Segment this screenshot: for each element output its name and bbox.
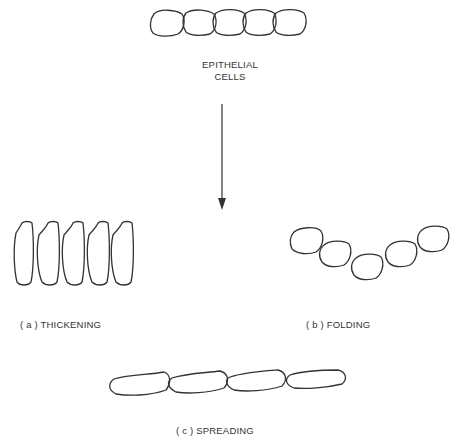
cell bbox=[243, 10, 276, 36]
cell bbox=[62, 222, 84, 286]
cell bbox=[111, 222, 133, 286]
arrow-down-icon bbox=[218, 104, 226, 210]
thickening-cells bbox=[14, 222, 133, 286]
cell bbox=[287, 370, 346, 388]
epithelial-label-line1: EPITHELIAL bbox=[190, 59, 270, 71]
cell bbox=[320, 241, 351, 267]
epithelial-cells-label: EPITHELIAL CELLS bbox=[190, 59, 270, 83]
cell bbox=[150, 10, 184, 36]
cell bbox=[213, 10, 246, 36]
cell bbox=[87, 222, 109, 286]
cell bbox=[110, 372, 170, 395]
cell bbox=[37, 222, 59, 286]
cell bbox=[386, 241, 417, 267]
cell bbox=[227, 370, 286, 391]
cell bbox=[14, 222, 33, 286]
spreading-cells bbox=[110, 370, 346, 395]
thickening-label: ( a ) THICKENING bbox=[20, 319, 101, 330]
cell bbox=[169, 371, 228, 393]
folding-cells bbox=[290, 226, 449, 280]
cell bbox=[352, 254, 383, 280]
folding-label: ( b ) FOLDING bbox=[306, 319, 370, 330]
cell bbox=[183, 10, 216, 35]
spreading-label: ( c ) SPREADING bbox=[176, 425, 254, 436]
epithelial-cells-row bbox=[150, 10, 306, 37]
cell bbox=[273, 10, 306, 36]
epithelial-label-line2: CELLS bbox=[190, 71, 270, 83]
cell bbox=[418, 226, 449, 252]
cell bbox=[290, 228, 323, 254]
